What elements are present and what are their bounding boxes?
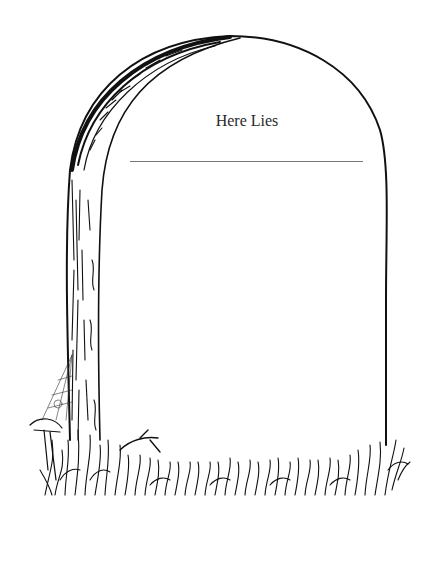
- twig: [120, 430, 160, 452]
- tombstone-drawing: [0, 0, 427, 563]
- stone-front-edge: [99, 38, 240, 440]
- spider-web: [42, 355, 72, 420]
- inscription-text: Here Lies: [180, 112, 314, 130]
- grass: [40, 430, 410, 495]
- name-blank-line: [130, 161, 363, 162]
- dandelion: [30, 419, 62, 480]
- tombstone-illustration: Here Lies: [0, 0, 427, 563]
